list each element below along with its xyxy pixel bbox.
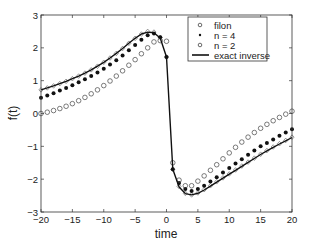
y-tick-label: −2 [27, 174, 38, 185]
y-tick-label: −1 [27, 141, 38, 152]
y-tick-label: 3 [33, 10, 38, 21]
x-tick-label: 15 [255, 214, 266, 225]
dot-filled-marker-icon [199, 34, 201, 36]
x-tick-label: 10 [224, 214, 235, 225]
x-tick-label: 0 [164, 214, 169, 225]
y-tick-label: −3 [27, 207, 38, 218]
y-tick-label: 1 [33, 75, 38, 86]
legend: filon n = 4 n = 2 exact inverse [188, 17, 270, 61]
x-axis-label: time [155, 227, 178, 241]
x-tick-label: −5 [130, 214, 141, 225]
x-tick-label: −15 [64, 214, 80, 225]
legend-label: exact inverse [214, 50, 270, 61]
x-tick-label: 20 [287, 214, 298, 225]
y-tick-label: 0 [33, 108, 38, 119]
x-tick-label: 5 [195, 214, 200, 225]
x-tick-label: −10 [96, 214, 112, 225]
y-axis-label: f(t) [6, 106, 20, 121]
chart-figure: −20−15−10−505101520 −3−2−10123 time f(t)… [0, 0, 313, 246]
y-tick-label: 2 [33, 42, 38, 53]
